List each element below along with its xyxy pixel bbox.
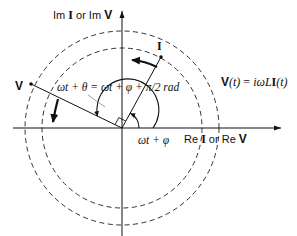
voltage-rotation-arrow xyxy=(53,99,58,122)
imag-label-V: V xyxy=(104,8,112,22)
imag-label-mid: or Im xyxy=(76,9,101,21)
equation-rhs-arg: (t) xyxy=(276,75,287,89)
phasor-diagram xyxy=(0,0,297,236)
real-label-I: I xyxy=(201,132,206,146)
current-angle-arc xyxy=(130,113,139,128)
voltage-phasor-tip-dot xyxy=(29,82,33,86)
equation-lhs-arg: (t) xyxy=(229,75,240,89)
formula-leader-line xyxy=(88,95,105,107)
imag-label-prefix: Im xyxy=(53,9,65,21)
voltage-phasor-label: V xyxy=(15,80,23,92)
equation-lhs-V: V xyxy=(221,75,229,89)
imaginary-axis-label: Im I or Im V xyxy=(53,9,112,21)
equation-rhs-prefix: iωL xyxy=(253,75,271,89)
real-label-prefix: Re xyxy=(184,133,198,145)
current-phasor-tip-dot xyxy=(159,55,163,59)
equation-equals: = xyxy=(240,75,253,89)
current-rotation-arrow xyxy=(132,60,157,67)
voltage-angle-label: ωt + θ = ωt + φ + π/2 rad xyxy=(57,82,179,94)
real-label-V: V xyxy=(239,132,247,146)
imag-label-I: I xyxy=(68,8,73,22)
real-label-mid: or Re xyxy=(209,133,236,145)
real-axis-label: Re I or Re V xyxy=(184,133,247,145)
current-angle-label: ωt + φ xyxy=(138,135,169,147)
current-phasor-label: I xyxy=(157,40,162,52)
inductor-equation: V(t) = iωLI(t) xyxy=(221,76,288,88)
